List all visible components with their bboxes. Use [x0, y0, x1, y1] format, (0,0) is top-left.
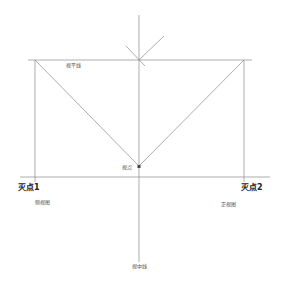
horizon-line-label: 视平线 — [66, 63, 81, 68]
vanishing-point-1-label: 灭点1 — [18, 184, 40, 192]
sightline-right — [139, 60, 244, 166]
perspective-diagram — [0, 0, 281, 287]
angle-arm-left — [126, 46, 145, 66]
center-line-label: 视中线 — [132, 264, 147, 269]
front-view-label: 正视图 — [221, 202, 236, 207]
angle-arm-right — [139, 36, 164, 60]
viewpoint-marker — [138, 165, 141, 168]
viewpoint-label: 视点 — [122, 165, 132, 170]
sightline-left — [35, 60, 139, 166]
vanishing-point-2-label: 灭点2 — [241, 184, 263, 192]
side-view-label: 侧视图 — [35, 200, 50, 205]
